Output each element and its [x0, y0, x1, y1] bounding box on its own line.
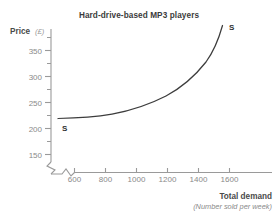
x-tick-label-1000: 1000: [128, 175, 146, 184]
y-axis-title: Price: [10, 27, 30, 36]
x-tick-label-1200: 1200: [159, 175, 177, 184]
x-tick-label-1600: 1600: [221, 175, 239, 184]
y-tick-label-200: 200: [29, 125, 43, 134]
x-axis-title: Total demand: [219, 192, 272, 201]
chart-canvas: Hard-drive-based MP3 players 150 200 250…: [0, 0, 277, 217]
chart-container: Hard-drive-based MP3 players 150 200 250…: [0, 0, 277, 217]
x-tick-label-1400: 1400: [190, 175, 208, 184]
curve-end-label-s: S: [229, 23, 235, 32]
y-tick-label-350: 350: [29, 47, 43, 56]
curve-start-label-s: S: [62, 124, 68, 133]
y-tick-label-150: 150: [29, 151, 43, 160]
y-axis-break-icon: [47, 162, 55, 174]
chart-title: Hard-drive-based MP3 players: [79, 11, 200, 20]
y-tick-label-250: 250: [29, 99, 43, 108]
y-axis-unit: (£): [35, 27, 45, 36]
x-tick-label-800: 800: [99, 175, 113, 184]
x-axis-subtitle: (Number sold per week): [193, 202, 272, 211]
supply-curve: [58, 26, 223, 119]
y-tick-label-300: 300: [29, 73, 43, 82]
x-tick-label-600: 600: [68, 175, 82, 184]
